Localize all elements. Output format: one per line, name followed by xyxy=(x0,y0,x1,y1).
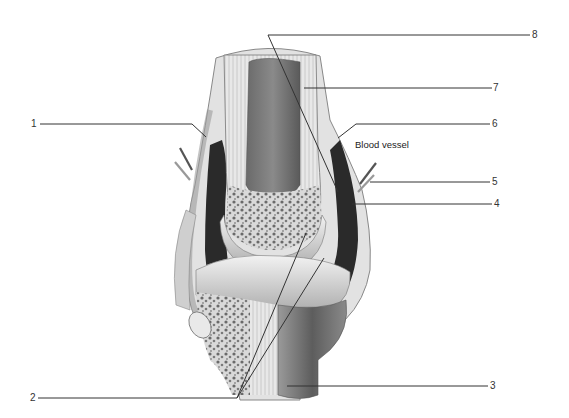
callout-4: 4 xyxy=(494,199,500,209)
joint-illustration xyxy=(0,0,569,418)
callout-3: 3 xyxy=(490,381,496,391)
medullary-cavity xyxy=(246,59,300,201)
leader-line-1 xyxy=(40,124,206,137)
callout-5: 5 xyxy=(492,177,498,187)
blood-vessel-annotation: Blood vessel xyxy=(355,140,409,150)
spongy-bone-lower xyxy=(196,292,250,395)
callout-6: 6 xyxy=(492,119,498,129)
compact-bone-lower xyxy=(250,300,278,395)
joint-diagram: 1 2 3 4 5 6 7 8 Blood vessel xyxy=(0,0,569,418)
callout-7: 7 xyxy=(493,83,499,93)
leader-line-6 xyxy=(338,124,490,138)
lower-bone xyxy=(196,255,350,398)
callout-1: 1 xyxy=(31,119,37,129)
callout-2: 2 xyxy=(30,393,36,403)
callout-8: 8 xyxy=(532,30,538,40)
